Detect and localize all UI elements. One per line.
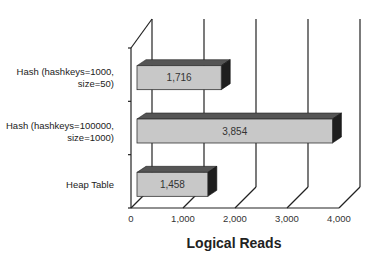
x-tick-label: 2,000 [223,213,247,224]
category-labels: Hash (hashkeys=1000,size=50)Hash (hashke… [6,66,114,190]
bar: 1,716 [137,60,230,90]
bar-value-label: 1,716 [167,72,192,83]
category-label: Hash (hashkeys=1000, [17,66,114,77]
category-label: size=50) [78,78,114,89]
x-tick-label: 4,000 [327,213,351,224]
bar-chart: 1,7163,8541,458 Hash (hashkeys=1000,size… [0,0,374,258]
bar: 3,854 [137,113,341,143]
bar-value-label: 3,854 [222,126,247,137]
x-tick-labels: 01,0002,0003,0004,000 [128,213,351,224]
x-tick-label: 3,000 [275,213,299,224]
category-label: size=1000) [67,132,114,143]
bar: 1,458 [137,166,217,196]
gridline [339,19,360,208]
x-axis-title: Logical Reads [187,235,282,251]
x-tick-label: 0 [128,213,133,224]
x-tick-label: 1,000 [171,213,195,224]
category-label: Hash (hashkeys=100000, [6,120,114,131]
category-label: Heap Table [66,179,114,190]
bars: 1,7163,8541,458 [137,60,341,197]
bar-value-label: 1,458 [160,179,185,190]
